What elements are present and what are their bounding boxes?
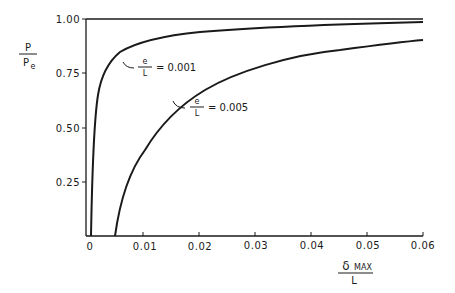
- x-ticks: 0 0.01 0.02 0.03 0.04 0.05 0.06: [87, 232, 436, 252]
- svg-text:e: e: [31, 62, 36, 71]
- svg-text:MAX: MAX: [354, 263, 372, 272]
- x-tick-label: 0.06: [411, 240, 435, 251]
- svg-text:δ: δ: [342, 259, 349, 273]
- x-tick-label: 0.01: [133, 241, 157, 252]
- chart-svg: 0.25 0.50 0.75 1.00 0 0.01 0.02 0.03 0.0…: [0, 0, 455, 293]
- x-tick-label: 0.02: [188, 241, 212, 252]
- y-axis-label: P P e: [19, 42, 37, 71]
- curve-annotation-0.001: e L = 0.001: [123, 57, 196, 78]
- svg-text:e: e: [143, 57, 148, 66]
- svg-text:= 0.005: = 0.005: [208, 102, 248, 113]
- svg-text:= 0.001: = 0.001: [156, 62, 196, 73]
- x-tick-label: 0.04: [300, 240, 324, 251]
- y-tick-label: 0.25: [56, 177, 80, 188]
- x-tick-label: 0.03: [244, 240, 268, 251]
- x-tick-label: 0: [87, 241, 94, 252]
- svg-text:P: P: [25, 42, 31, 53]
- y-ticks: 0.25 0.50 0.75 1.00: [56, 14, 86, 188]
- svg-text:e: e: [195, 97, 200, 106]
- y-tick-label: 0.50: [56, 123, 80, 134]
- x-tick-label: 0.05: [356, 240, 380, 251]
- y-tick-label: 1.00: [56, 14, 80, 25]
- svg-text:L: L: [143, 69, 148, 78]
- y-tick-label: 0.75: [56, 68, 80, 79]
- curve-annotation-0.005: e L = 0.005: [173, 97, 248, 118]
- curve-e-over-l-0.001: [91, 22, 423, 236]
- chart-container: 0.25 0.50 0.75 1.00 0 0.01 0.02 0.03 0.0…: [0, 0, 455, 293]
- svg-text:P: P: [23, 57, 29, 68]
- x-axis-label: δ MAX L: [338, 259, 373, 286]
- svg-text:L: L: [351, 275, 357, 286]
- svg-text:L: L: [195, 109, 200, 118]
